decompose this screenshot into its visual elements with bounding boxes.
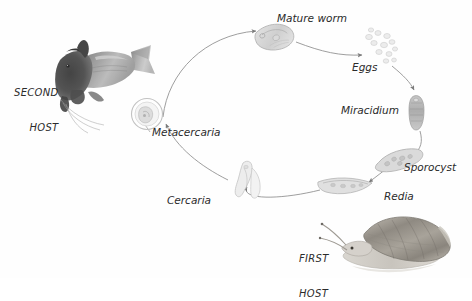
label-sporocyst: Sporocyst (404, 161, 456, 173)
eggs-cluster-icon (366, 28, 398, 63)
miracidium-icon (409, 96, 424, 130)
arrow-mature-worm-to-eggs (296, 42, 362, 55)
snail-icon (319, 217, 451, 272)
metacercaria-cyst-icon (132, 99, 163, 130)
label-redia: Redia (384, 190, 414, 202)
arrow-metacercaria-to-mature-worm (163, 31, 256, 117)
label-second-host-line2: HOST (14, 122, 59, 134)
label-metacercaria: Metacercaria (152, 126, 221, 138)
label-miracidium: Miracidium (341, 104, 399, 116)
label-first-host-line2: HOST (299, 288, 329, 300)
label-cercaria: Cercaria (167, 194, 211, 206)
label-second-host: SECOND HOST (14, 64, 59, 156)
label-first-host: FIRST HOST (299, 230, 329, 301)
label-mature-worm: Mature worm (277, 12, 347, 24)
arrow-eggs-to-miracidium (392, 66, 414, 90)
label-second-host-line1: SECOND (14, 87, 59, 99)
label-eggs: Eggs (352, 61, 377, 73)
redia-icon (318, 178, 372, 194)
label-first-host-line1: FIRST (299, 253, 329, 265)
